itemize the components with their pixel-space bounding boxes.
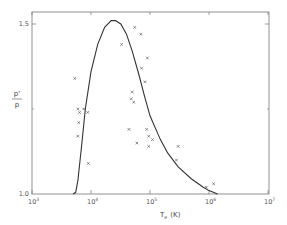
x-marker <box>205 186 208 189</box>
x-marker <box>87 162 90 165</box>
y-tick-label: 1.5 <box>19 20 29 28</box>
y-axis-label: p' p <box>12 90 22 109</box>
x-tick-label: 104 <box>87 197 98 206</box>
x-marker <box>128 128 131 131</box>
x-tick-label: 107 <box>264 197 275 206</box>
x-marker <box>78 111 81 114</box>
x-marker <box>146 57 149 60</box>
y-axis: 1.5 1.0 <box>19 20 269 198</box>
x-marker <box>77 121 80 124</box>
x-marker <box>147 145 150 148</box>
x-marker <box>77 135 80 138</box>
data-points <box>73 26 215 188</box>
x-tick-label: 105 <box>146 197 157 206</box>
plot-frame <box>32 12 269 194</box>
x-marker <box>77 108 80 111</box>
x-marker <box>133 26 136 29</box>
x-marker <box>120 43 123 46</box>
x-marker <box>136 142 139 145</box>
y-label-numerator: p' <box>14 90 20 98</box>
x-marker <box>175 159 178 162</box>
x-marker <box>130 98 133 101</box>
x-tick-label: 106 <box>205 197 216 206</box>
x-axis: 103104105106107 <box>28 12 275 206</box>
x-marker <box>144 81 147 84</box>
x-marker <box>82 108 85 111</box>
x-axis-label: Te(K) <box>159 211 181 220</box>
x-marker <box>131 91 134 94</box>
x-marker <box>177 145 180 148</box>
chart-canvas: 1.5 1.0 p' p 103104105106107 Te(K) <box>0 0 287 225</box>
x-marker <box>212 183 215 186</box>
x-marker <box>73 77 76 80</box>
x-marker <box>151 138 154 141</box>
x-marker <box>145 128 148 131</box>
x-marker <box>147 135 150 138</box>
x-marker <box>140 67 143 70</box>
x-marker <box>132 101 135 104</box>
x-marker <box>140 33 143 36</box>
x-tick-label: 103 <box>28 197 39 206</box>
y-label-denominator: p <box>15 101 20 109</box>
y-tick-label: 1.0 <box>19 190 29 198</box>
model-curve <box>73 21 217 194</box>
x-marker <box>86 111 89 114</box>
